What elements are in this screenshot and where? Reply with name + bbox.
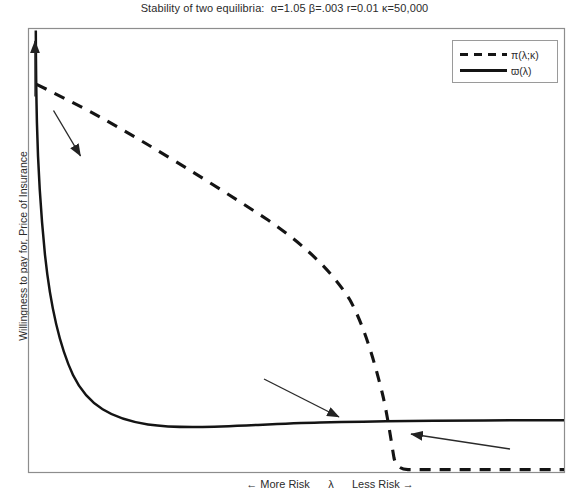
- legend-label-varpi: ϖ(λ): [511, 65, 531, 77]
- series-line-pi: [37, 84, 564, 469]
- legend-label-pi: π(λ;κ): [511, 49, 539, 61]
- annotation-arrow-left-lower: [411, 434, 510, 449]
- plot-area: π(λ;κ) ϖ(λ): [0, 0, 569, 499]
- series-line-varpi: [36, 31, 564, 428]
- legend: π(λ;κ) ϖ(λ): [453, 41, 558, 83]
- chart-screenshot: Stability of two equilibria: α=1.05 β=.0…: [0, 0, 569, 499]
- legend-box: [453, 41, 558, 83]
- plot-frame: [29, 29, 565, 473]
- annotation-arrow-down-right-middle: [264, 379, 339, 417]
- annotation-arrow-down-upper: [54, 111, 81, 157]
